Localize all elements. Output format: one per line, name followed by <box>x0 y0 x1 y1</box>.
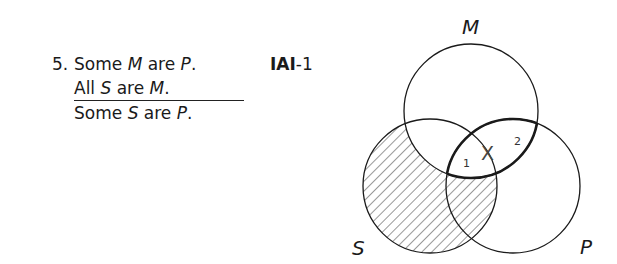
region-label-1: 1 <box>463 157 470 170</box>
label-m: M <box>462 15 479 39</box>
x-mark: X <box>481 142 494 164</box>
region-label-2: 2 <box>514 135 521 148</box>
shaded-region <box>360 110 505 260</box>
venn-diagram: M S P X 1 2 <box>0 0 617 264</box>
label-p: P <box>580 235 593 259</box>
label-s: S <box>352 236 365 260</box>
